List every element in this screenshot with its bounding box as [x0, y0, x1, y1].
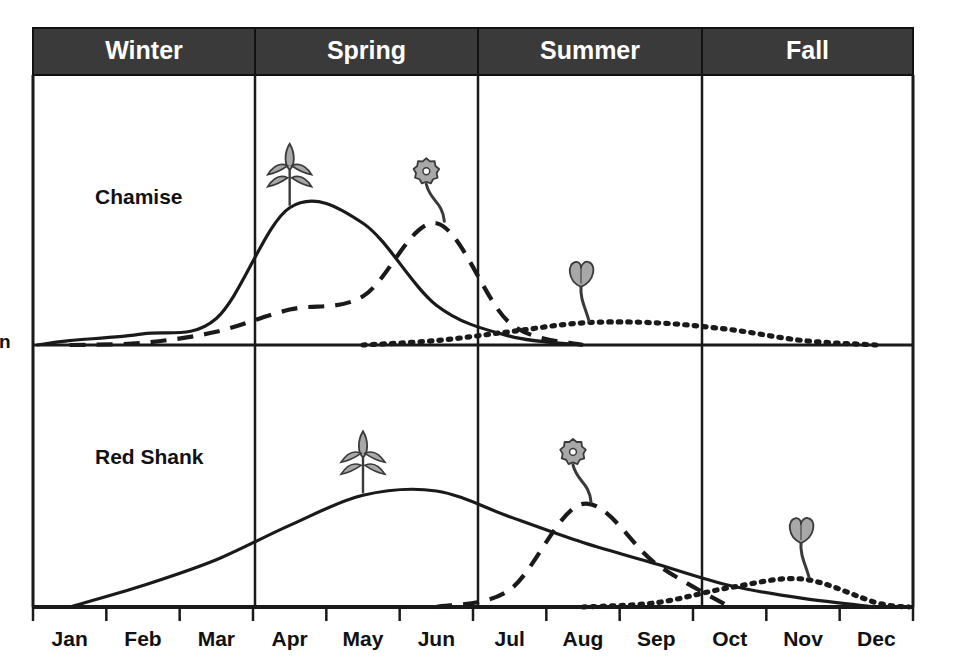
axis-label-fragment: n: [0, 331, 11, 352]
season-header-label: Winter: [105, 36, 183, 64]
month-label-nov: Nov: [783, 627, 823, 650]
month-label-oct: Oct: [712, 627, 747, 650]
season-header-label: Summer: [540, 36, 640, 64]
month-label-apr: Apr: [272, 627, 308, 650]
sprout-leaf: [365, 464, 385, 474]
panel-curves-redshank: [70, 489, 909, 607]
month-axis: JanFebMarAprMayJunJulAugSepOctNovDec: [33, 607, 913, 650]
phenology-chart: n WinterSpringSummerFall ChamiseRed Shan…: [0, 0, 954, 672]
month-label-may: May: [343, 627, 384, 650]
panel-curves-chamise: [37, 201, 876, 345]
flower-center: [570, 448, 577, 455]
flower-stem: [426, 184, 444, 221]
season-header-label: Fall: [786, 36, 829, 64]
sprout-icon: [268, 144, 312, 206]
flower-stem: [573, 465, 591, 502]
season-header-label: Spring: [327, 36, 406, 64]
sprout-leaf: [268, 176, 288, 186]
sprout-leaf: [292, 176, 312, 186]
sprout-icon: [341, 431, 385, 493]
chart-canvas: n WinterSpringSummerFall ChamiseRed Shan…: [0, 0, 954, 672]
sprout-leaf: [292, 164, 312, 174]
seed-stem: [581, 286, 589, 321]
seed-icon: [790, 518, 814, 577]
month-label-jun: Jun: [418, 627, 455, 650]
sprout-leaf: [341, 452, 361, 462]
sprout-leaf: [341, 464, 361, 474]
curve-redshank-flowering: [436, 504, 729, 607]
season-header-row: WinterSpringSummerFall: [33, 28, 913, 75]
month-label-dec: Dec: [857, 627, 896, 650]
species-label-chamise: Chamise: [95, 185, 183, 208]
sprout-leaf: [365, 452, 385, 462]
month-label-jan: Jan: [52, 627, 88, 650]
curve-redshank-seed-dispersal: [583, 579, 909, 607]
flower-center: [423, 168, 430, 175]
species-label-redshank: Red Shank: [95, 445, 204, 468]
month-label-aug: Aug: [563, 627, 604, 650]
seed-icon: [570, 262, 594, 321]
curve-chamise-vegetative-growth: [37, 201, 583, 345]
sprout-leaf: [268, 164, 288, 174]
curve-layer: [37, 201, 909, 607]
month-label-mar: Mar: [198, 627, 235, 650]
curve-redshank-vegetative-growth: [70, 489, 877, 607]
curve-chamise-flowering: [70, 223, 583, 345]
seed-stem: [801, 542, 809, 577]
curve-chamise-seed-dispersal: [363, 322, 876, 345]
species-label-layer: ChamiseRed Shank: [95, 185, 204, 468]
flower-icon: [414, 158, 445, 221]
month-label-sep: Sep: [637, 627, 676, 650]
month-label-feb: Feb: [124, 627, 161, 650]
icon-layer: [268, 144, 814, 577]
flower-icon: [560, 439, 591, 502]
month-label-jul: Jul: [494, 627, 524, 650]
